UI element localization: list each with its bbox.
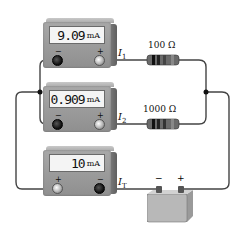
terminal-negative-icon xyxy=(52,55,63,66)
ammeter-it: 10 mA + − xyxy=(43,146,117,198)
meter-reading: 9.09 xyxy=(57,28,84,43)
current-label-i1: I1 xyxy=(118,47,126,61)
current-label-it: IT xyxy=(118,176,127,190)
meter-unit: mA xyxy=(87,95,100,104)
terminal-positive-icon xyxy=(52,183,63,194)
meter-reading: 10 xyxy=(71,156,85,171)
resistor-r2 xyxy=(147,119,179,129)
battery xyxy=(147,186,193,224)
meter-reading: 0.909 xyxy=(50,92,84,107)
battery-negative-sign: − xyxy=(155,173,163,183)
resistor-r1-label: 100 Ω xyxy=(148,40,176,50)
terminal-negative-icon xyxy=(52,119,63,130)
meter-display: 10 mA xyxy=(49,154,105,172)
resistor-r2-label: 1000 Ω xyxy=(143,104,176,114)
terminal-negative-icon xyxy=(94,183,105,194)
battery-icon xyxy=(147,186,193,224)
circuit-diagram: 9.09 mA − + I1 100 Ω 0.909 mA − + I2 100… xyxy=(0,0,244,236)
meter-display: 9.09 mA xyxy=(49,26,105,44)
current-label-i2: I2 xyxy=(118,111,126,125)
meter-unit: mA xyxy=(87,31,100,40)
battery-positive-sign: + xyxy=(177,173,185,183)
terminal-positive-icon xyxy=(94,119,105,130)
terminal-positive-icon xyxy=(94,55,105,66)
ammeter-i1: 9.09 mA − + xyxy=(43,18,117,70)
meter-display: 0.909 mA xyxy=(49,90,105,108)
meter-unit: mA xyxy=(87,159,100,168)
ammeter-i2: 0.909 mA − + xyxy=(43,82,117,134)
resistor-r1 xyxy=(147,55,179,65)
